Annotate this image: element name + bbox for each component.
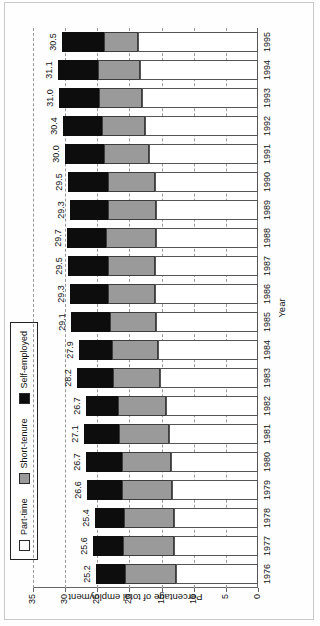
bar-segment-part[interactable] — [156, 228, 258, 248]
bar-segment-self[interactable] — [93, 536, 123, 556]
bar-segment-part[interactable] — [156, 200, 258, 220]
x-axis-category-label: 1991 — [262, 144, 272, 164]
bar-segment-self[interactable] — [79, 340, 112, 360]
bar-segment-self[interactable] — [71, 312, 110, 332]
bar-segment-part[interactable] — [166, 396, 258, 416]
bar-segment-short[interactable] — [99, 88, 142, 108]
bar-segment-short[interactable] — [112, 340, 158, 360]
bar-1978[interactable] — [95, 508, 258, 528]
bar-value-label: 26.7 — [72, 397, 82, 415]
bar-segment-part[interactable] — [172, 480, 258, 500]
x-axis-category-label: 1978 — [262, 508, 272, 528]
bar-segment-part[interactable] — [138, 32, 258, 52]
bar-segment-short[interactable] — [124, 508, 174, 528]
bar-segment-short[interactable] — [119, 424, 169, 444]
bar-segment-part[interactable] — [140, 60, 258, 80]
bar-segment-self[interactable] — [68, 172, 107, 192]
bar-1991[interactable] — [65, 144, 258, 164]
bar-segment-part[interactable] — [158, 340, 258, 360]
bar-1976[interactable] — [96, 564, 258, 584]
bar-segment-self[interactable] — [77, 368, 113, 388]
bar-segment-short[interactable] — [98, 60, 140, 80]
bar-segment-short[interactable] — [113, 368, 160, 388]
bar-value-label: 31.1 — [44, 61, 54, 79]
bar-segment-self[interactable] — [68, 256, 107, 276]
bar-segment-part[interactable] — [142, 88, 258, 108]
bar-segment-self[interactable] — [84, 424, 119, 444]
bar-1986[interactable] — [70, 284, 258, 304]
legend-item-part[interactable]: Part-time — [19, 498, 30, 551]
legend-item-self[interactable]: Self-employed — [19, 331, 30, 405]
x-axis-line — [257, 28, 258, 588]
bar-segment-short[interactable] — [122, 452, 172, 472]
bar-segment-short[interactable] — [106, 228, 156, 248]
bar-segment-short[interactable] — [110, 312, 156, 332]
bar-segment-short[interactable] — [104, 144, 148, 164]
bar-segment-part[interactable] — [176, 564, 258, 584]
bar-segment-short[interactable] — [108, 172, 155, 192]
bar-segment-self[interactable] — [86, 396, 118, 416]
bar-segment-short[interactable] — [118, 396, 166, 416]
bar-segment-part[interactable] — [174, 536, 258, 556]
bar-segment-self[interactable] — [86, 452, 121, 472]
x-axis-category-label: 1986 — [262, 284, 272, 304]
bar-segment-short[interactable] — [122, 480, 172, 500]
bar-1983[interactable] — [77, 368, 258, 388]
bar-segment-part[interactable] — [160, 368, 258, 388]
bar-1979[interactable] — [87, 480, 258, 500]
x-axis-category-label: 1981 — [262, 424, 272, 444]
bar-1980[interactable] — [86, 452, 258, 472]
bar-1992[interactable] — [63, 116, 258, 136]
bar-segment-self[interactable] — [70, 200, 109, 220]
bar-1984[interactable] — [79, 340, 258, 360]
bar-segment-part[interactable] — [169, 424, 258, 444]
bar-value-label: 25.2 — [82, 565, 92, 583]
bar-1987[interactable] — [68, 256, 258, 276]
bar-segment-self[interactable] — [59, 88, 99, 108]
bar-1988[interactable] — [67, 228, 258, 248]
bar-segment-short[interactable] — [104, 32, 138, 52]
bar-1993[interactable] — [59, 88, 258, 108]
bar-1994[interactable] — [58, 60, 258, 80]
bar-value-label: 29.1 — [57, 313, 67, 331]
x-axis-category-label: 1976 — [262, 564, 272, 584]
x-axis-category-label: 1987 — [262, 256, 272, 276]
bar-segment-part[interactable] — [155, 284, 259, 304]
bar-1977[interactable] — [93, 536, 258, 556]
bar-segment-self[interactable] — [65, 144, 104, 164]
bar-segment-part[interactable] — [155, 256, 258, 276]
bar-segment-self[interactable] — [70, 284, 109, 304]
bar-segment-self[interactable] — [95, 508, 125, 528]
bar-segment-part[interactable] — [155, 172, 259, 192]
bar-1989[interactable] — [70, 200, 258, 220]
bar-segment-short[interactable] — [125, 564, 176, 584]
legend-item-short[interactable]: Short-tenure — [19, 418, 30, 484]
bar-segment-self[interactable] — [87, 480, 122, 500]
bar-value-label: 27.1 — [70, 425, 80, 443]
bar-segment-short[interactable] — [102, 116, 145, 136]
gridline — [97, 28, 98, 588]
bar-1985[interactable] — [71, 312, 258, 332]
gridline — [65, 28, 66, 588]
bar-segment-self[interactable] — [62, 32, 104, 52]
bar-segment-short[interactable] — [123, 536, 174, 556]
bar-segment-part[interactable] — [145, 116, 258, 136]
bar-1982[interactable] — [86, 396, 258, 416]
bar-segment-part[interactable] — [156, 312, 258, 332]
bar-1990[interactable] — [68, 172, 258, 192]
bar-segment-self[interactable] — [96, 564, 125, 584]
bar-1981[interactable] — [84, 424, 258, 444]
bar-1995[interactable] — [62, 32, 258, 52]
bar-value-label: 29.7 — [53, 229, 63, 247]
bar-segment-part[interactable] — [174, 508, 258, 528]
gridline — [226, 28, 227, 588]
bar-segment-self[interactable] — [67, 228, 106, 248]
bar-segment-short[interactable] — [108, 256, 156, 276]
bar-segment-part[interactable] — [171, 452, 258, 472]
x-axis-category-label: 1984 — [262, 340, 272, 360]
bar-segment-short[interactable] — [108, 284, 154, 304]
bar-segment-self[interactable] — [58, 60, 98, 80]
bar-segment-short[interactable] — [108, 200, 156, 220]
bar-segment-self[interactable] — [63, 116, 102, 136]
bar-segment-part[interactable] — [149, 144, 258, 164]
